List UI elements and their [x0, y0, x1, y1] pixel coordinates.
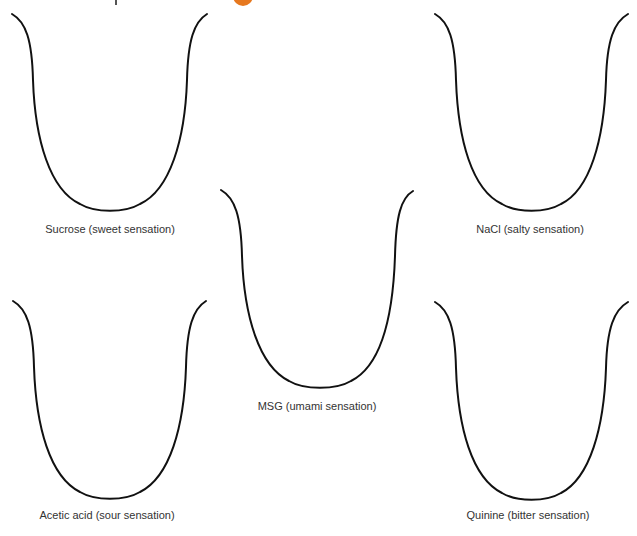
- tongue-outline-nacl: [435, 14, 628, 211]
- tongue-outline-msg: [221, 190, 413, 388]
- label-quinine: Quinine (bitter sensation): [467, 509, 590, 521]
- label-sucrose: Sucrose (sweet sensation): [45, 223, 175, 235]
- label-msg: MSG (umami sensation): [258, 400, 377, 412]
- label-acetic-acid: Acetic acid (sour sensation): [39, 509, 174, 521]
- tongue-outline-quinine: [435, 302, 628, 500]
- tongue-outline-sucrose: [12, 14, 207, 211]
- tongue-outline-acetic-acid: [13, 301, 206, 499]
- tongue-diagram: [0, 0, 637, 536]
- label-nacl: NaCl (salty sensation): [476, 223, 584, 235]
